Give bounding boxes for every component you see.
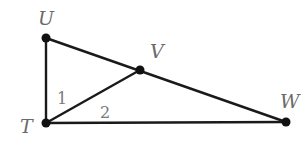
segment-UW — [46, 38, 286, 122]
label-W: W — [280, 90, 301, 112]
segments — [46, 38, 286, 123]
point-V — [136, 66, 145, 75]
label-T: T — [20, 115, 34, 137]
label-V: V — [150, 40, 166, 62]
point-T — [42, 119, 51, 128]
point-W — [282, 118, 291, 127]
segment-TW — [46, 122, 286, 123]
angle-labels: 1 2 — [57, 89, 110, 122]
angle-label-1: 1 — [57, 89, 67, 108]
angle-label-2: 2 — [100, 103, 110, 122]
vertex-labels: U V W T — [20, 7, 301, 137]
label-U: U — [38, 7, 55, 29]
point-U — [42, 34, 51, 43]
triangle-diagram: U V W T 1 2 — [0, 0, 308, 148]
